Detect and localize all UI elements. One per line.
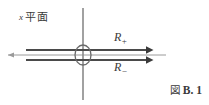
figure-caption: 図B. 1 bbox=[170, 85, 202, 97]
caption-prefix: 図 bbox=[170, 84, 183, 96]
caption-id: B. 1 bbox=[183, 84, 202, 96]
ray-upper-label: R+ bbox=[114, 31, 127, 46]
ray-lower-subscript: − bbox=[121, 66, 127, 76]
figure-b1: x平面 R+ R− 図B. 1 bbox=[0, 0, 209, 105]
ray-upper-arrowhead-icon bbox=[146, 46, 154, 54]
axis-left-arrowhead-icon bbox=[8, 53, 14, 58]
ray-lower-label: R− bbox=[114, 61, 127, 76]
ray-upper-subscript: + bbox=[121, 36, 127, 46]
plane-label: x平面 bbox=[19, 12, 48, 23]
ray-lower-arrowhead-icon bbox=[146, 56, 154, 64]
plane-label-text: 平面 bbox=[25, 11, 48, 24]
